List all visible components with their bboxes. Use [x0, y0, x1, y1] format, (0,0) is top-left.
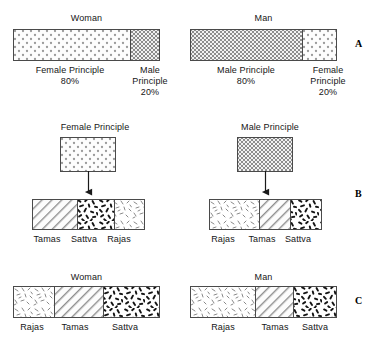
- section-b-left-seg2-label: Sattva: [66, 234, 102, 245]
- section-a-left-title: Woman: [13, 13, 160, 24]
- section-b-left-title: Female Principle: [40, 122, 150, 133]
- section-a-left-bar: [13, 29, 160, 61]
- section-a-right-bar: [190, 29, 337, 61]
- section-b-right-seg1-label: Rajas: [207, 234, 239, 245]
- section-c-right-seg2-label: Tamas: [255, 322, 295, 333]
- section-a-left-seg1-value: 80%: [8, 76, 132, 87]
- section-c-left-seg1-label: Rajas: [12, 322, 52, 333]
- figure-root: Woman Man Female Principle 80% MalePrinc…: [0, 0, 376, 355]
- section-c-left-seg2-label: Tamas: [55, 322, 95, 333]
- section-b-left-bar: [32, 199, 145, 230]
- section-b-right-arrow: [258, 171, 274, 200]
- section-b-right-source-box: [237, 137, 293, 172]
- section-a-right-seg2-value: 20%: [304, 87, 352, 98]
- section-c-left-bar: [13, 286, 160, 318]
- section-b-right-seg2-label: Tamas: [245, 234, 279, 245]
- section-a-left-seg1-label: Female Principle: [8, 65, 132, 76]
- section-a-right-seg1-label: Male Principle: [184, 65, 308, 76]
- section-a-left-seg2-label: MalePrinciple: [128, 65, 172, 86]
- section-label-c: C: [355, 295, 362, 306]
- section-c-right-title: Man: [190, 272, 337, 283]
- section-label-b: B: [355, 188, 362, 199]
- section-b-right-seg3-label: Sattva: [281, 234, 315, 245]
- section-b-left-source-box: [60, 137, 116, 172]
- section-a-left-seg2-value: 20%: [128, 87, 172, 98]
- section-b-right-bar: [209, 199, 322, 230]
- section-a-right-title: Man: [190, 13, 337, 24]
- section-label-a: A: [355, 38, 362, 49]
- section-c-right-bar: [190, 286, 337, 318]
- section-b-left-arrow: [81, 171, 97, 200]
- section-c-left-seg3-label: Sattva: [105, 322, 145, 333]
- section-a-right-seg2-label: FemalePrinciple: [304, 65, 352, 86]
- section-b-right-title: Male Principle: [215, 122, 325, 133]
- section-c-right-seg3-label: Sattva: [295, 322, 335, 333]
- section-b-left-seg3-label: Rajas: [103, 234, 135, 245]
- section-c-right-seg1-label: Rajas: [203, 322, 243, 333]
- section-b-left-seg1-label: Tamas: [30, 234, 64, 245]
- section-a-right-seg1-value: 80%: [184, 76, 308, 87]
- section-c-left-title: Woman: [13, 272, 160, 283]
